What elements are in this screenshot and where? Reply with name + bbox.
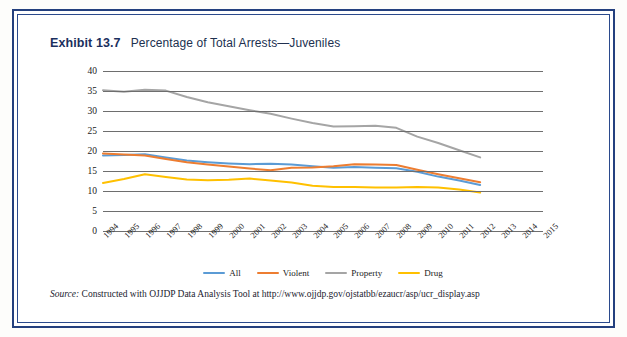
page-root: Exhibit 13.7Percentage of Total Arrests—… [0,0,627,337]
legend-label: Violent [283,268,309,278]
legend-label: All [229,268,241,278]
legend-swatch-icon [325,272,347,275]
chart-gridline: 25 [103,131,543,132]
chart-series-line [103,174,480,192]
chart-gridline: 40 [103,71,543,72]
page-title: Percentage of Total Arrests—Juveniles [131,36,341,50]
source-label: Source: [50,289,79,299]
chart-y-tick-label: 15 [88,166,98,176]
chart-gridline: 35 [103,91,543,92]
chart-series-line [103,153,480,182]
chart-gridline: 5 [103,211,543,212]
legend-label: Property [351,268,382,278]
exhibit-number: Exhibit 13.7 [50,36,121,50]
chart-container: 0510152025303540 19941995199619971998199… [68,63,568,275]
exhibit-header: Exhibit 13.7Percentage of Total Arrests—… [50,33,340,51]
legend-item[interactable]: Property [325,268,382,278]
legend-item[interactable]: All [203,268,241,278]
chart-gridline: 15 [103,171,543,172]
chart-series-line [103,90,480,158]
chart-y-tick-label: 0 [92,226,97,236]
legend-swatch-icon [203,272,225,275]
chart-x-tick-label: 2015 [541,221,560,240]
chart-x-axis-labels: 1994199519961997199819992000200120022003… [103,233,543,267]
source-text: Constructed with OJJDP Data Analysis Too… [79,289,479,299]
legend-label: Drug [424,268,443,278]
chart-y-tick-label: 20 [88,146,98,156]
chart-gridline: 30 [103,111,543,112]
chart-y-tick-label: 10 [88,186,98,196]
chart-gridline: 10 [103,191,543,192]
chart-plot-area: 0510152025303540 [103,71,543,231]
chart-y-tick-label: 40 [88,66,98,76]
chart-legend: AllViolentPropertyDrug [103,268,543,278]
chart-y-tick-label: 30 [88,106,98,116]
legend-swatch-icon [398,272,420,275]
legend-item[interactable]: Drug [398,268,443,278]
exhibit-content: Exhibit 13.7Percentage of Total Arrests—… [20,17,607,320]
chart-gridline: 20 [103,151,543,152]
legend-item[interactable]: Violent [257,268,309,278]
chart-y-tick-label: 5 [92,206,97,216]
source-note: Source: Constructed with OJJDP Data Anal… [50,289,480,299]
chart-y-tick-label: 25 [88,126,98,136]
chart-y-tick-label: 35 [88,86,98,96]
legend-swatch-icon [257,272,279,275]
